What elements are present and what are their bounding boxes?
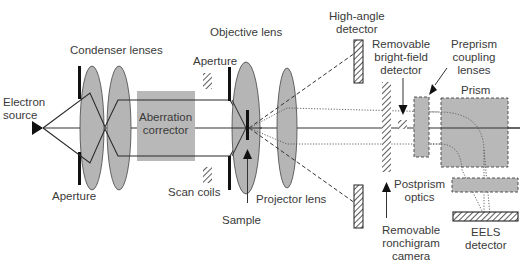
projector-lens bbox=[277, 68, 297, 188]
preprism-coupling-lenses bbox=[414, 97, 429, 157]
scan-coil-bottom bbox=[203, 167, 212, 183]
objective-aperture-top bbox=[228, 67, 231, 101]
label-preprism-lenses: Preprism coupling lenses bbox=[451, 38, 497, 77]
label-electron-source: Electron source bbox=[3, 96, 45, 122]
condenser-lens-1 bbox=[80, 66, 104, 190]
label-bright-field-detector: Removable bright-field detector bbox=[372, 38, 430, 77]
label-objective-aperture: Aperture bbox=[193, 55, 237, 68]
condenser-aperture-top bbox=[78, 66, 81, 99]
condenser-aperture-bottom bbox=[78, 152, 81, 185]
prism bbox=[441, 98, 508, 167]
bright-field-arrow-icon bbox=[399, 105, 408, 115]
label-postprism-optics: Postprism optics bbox=[394, 178, 445, 204]
high-angle-detector-top bbox=[354, 40, 363, 83]
label-eels-detector: EELS detector bbox=[465, 226, 507, 252]
ronchigram-arrow-icon bbox=[382, 182, 391, 192]
label-condenser-aperture: Aperture bbox=[52, 190, 96, 203]
sample bbox=[246, 110, 249, 140]
label-projector-lens: Projector lens bbox=[256, 193, 326, 206]
label-sample: Sample bbox=[222, 214, 261, 227]
objective-aperture-bottom bbox=[228, 156, 231, 190]
ronchigram-camera bbox=[382, 82, 391, 172]
label-objective-lens: Objective lens bbox=[210, 26, 282, 39]
label-prism: Prism bbox=[461, 84, 490, 97]
preprism-arrow-icon bbox=[429, 84, 437, 95]
bright-field-detector bbox=[398, 120, 407, 129]
postprism-optics bbox=[452, 178, 518, 192]
label-high-angle-detector: High-angle detector bbox=[329, 10, 385, 36]
label-scan-coils: Scan coils bbox=[168, 186, 220, 199]
label-condenser-lenses: Condenser lenses bbox=[70, 44, 163, 57]
eels-detector bbox=[453, 212, 518, 221]
condenser-lens-2 bbox=[107, 66, 131, 190]
high-angle-detector-bottom bbox=[354, 185, 363, 228]
label-ronchigram-camera: Removable ronchigram camera bbox=[382, 224, 440, 263]
label-aberration-corrector: Aberration corrector bbox=[139, 111, 192, 137]
scan-coil-top bbox=[203, 73, 212, 89]
electron-source-icon bbox=[32, 121, 43, 135]
